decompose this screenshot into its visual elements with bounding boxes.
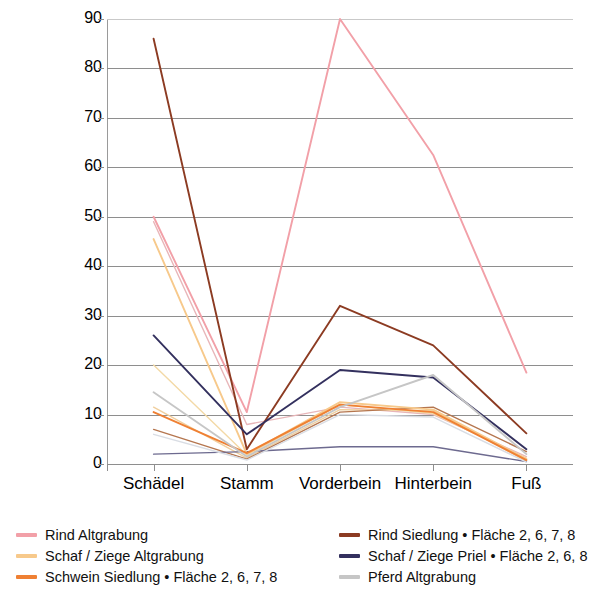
- y-tick-mark-30: [98, 316, 104, 317]
- x-tick-label-4: Fuß: [511, 474, 541, 494]
- legend-label: Schaf / Ziege Altgrabung: [45, 548, 204, 564]
- legend: Rind AltgrabungSchaf / Ziege AltgrabungS…: [12, 524, 587, 588]
- legend-label: Schaf / Ziege Priel • Fläche 2, 6, 8: [368, 548, 587, 564]
- y-tick-mark-80: [98, 68, 104, 69]
- x-tick-label-3: Hinterbein: [394, 474, 472, 494]
- y-tick-label-30: 30: [56, 306, 102, 324]
- x-tick-mark-2: [340, 464, 341, 471]
- x-tick-mark-3: [433, 464, 434, 471]
- y-tick-label-70: 70: [56, 108, 102, 126]
- y-tick-label-90: 90: [56, 9, 102, 27]
- y-axis-tick-labels: 0102030405060708090: [52, 19, 102, 464]
- line-series-2: [154, 405, 527, 460]
- line-series-0: [154, 19, 527, 412]
- y-tick-mark-50: [98, 217, 104, 218]
- legend-item-right-0[interactable]: Rind Siedlung • Fläche 2, 6, 7, 8: [339, 524, 587, 545]
- y-tick-mark-40: [98, 266, 104, 267]
- y-tick-label-10: 10: [56, 405, 102, 423]
- line-swatch-icon: [339, 554, 360, 558]
- x-tick-label-0: Schädel: [123, 474, 184, 494]
- x-axis-tick-labels: SchädelStammVorderbeinHinterbeinFuß: [107, 474, 573, 500]
- legend-item-left-2[interactable]: Schwein Siedlung • Fläche 2, 6, 7, 8: [16, 566, 277, 587]
- y-tick-label-60: 60: [56, 157, 102, 175]
- x-tick-label-1: Stamm: [220, 474, 274, 494]
- x-tick-mark-1: [247, 464, 248, 471]
- legend-item-left-1[interactable]: Schaf / Ziege Altgrabung: [16, 545, 277, 566]
- y-tick-mark-10: [98, 415, 104, 416]
- x-tick-mark-origin: [107, 464, 108, 471]
- line-series-group: [107, 19, 573, 464]
- line-series-5: [154, 375, 527, 457]
- y-tick-mark-60: [98, 167, 104, 168]
- line-series-1: [154, 239, 527, 459]
- line-extra-3: [154, 447, 527, 462]
- line-swatch-icon: [16, 533, 37, 537]
- line-swatch-icon: [16, 575, 37, 579]
- y-tick-mark-70: [98, 118, 104, 119]
- legend-column-right: Rind Siedlung • Fläche 2, 6, 7, 8Schaf /…: [339, 524, 587, 587]
- y-tick-mark-20: [98, 365, 104, 366]
- legend-item-right-2[interactable]: Pferd Altgrabung: [339, 566, 587, 587]
- y-tick-label-50: 50: [56, 207, 102, 225]
- line-extra-0: [154, 222, 527, 457]
- plot-area: [107, 19, 573, 464]
- legend-item-right-1[interactable]: Schaf / Ziege Priel • Fläche 2, 6, 8: [339, 545, 587, 566]
- line-swatch-icon: [339, 533, 360, 537]
- legend-label: Schwein Siedlung • Fläche 2, 6, 7, 8: [45, 569, 277, 585]
- x-tick-mark-0: [154, 464, 155, 471]
- x-tick-mark-4: [526, 464, 527, 471]
- y-tick-mark-0: [98, 464, 104, 465]
- y-tick-label-20: 20: [56, 355, 102, 373]
- legend-label: Pferd Altgrabung: [368, 569, 476, 585]
- line-swatch-icon: [339, 575, 360, 579]
- x-tick-label-2: Vorderbein: [299, 474, 381, 494]
- y-tick-label-0: 0: [56, 454, 102, 472]
- chart-root: Knochenzahl / Zahl der Skelett- elemente…: [0, 0, 591, 591]
- legend-label: Rind Siedlung • Fläche 2, 6, 7, 8: [368, 527, 575, 543]
- legend-label: Rind Altgrabung: [45, 527, 148, 543]
- line-swatch-icon: [16, 554, 37, 558]
- y-tick-label-40: 40: [56, 256, 102, 274]
- legend-item-left-0[interactable]: Rind Altgrabung: [16, 524, 277, 545]
- y-tick-label-80: 80: [56, 58, 102, 76]
- y-tick-mark-90: [98, 19, 104, 20]
- legend-column-left: Rind AltgrabungSchaf / Ziege AltgrabungS…: [16, 524, 277, 587]
